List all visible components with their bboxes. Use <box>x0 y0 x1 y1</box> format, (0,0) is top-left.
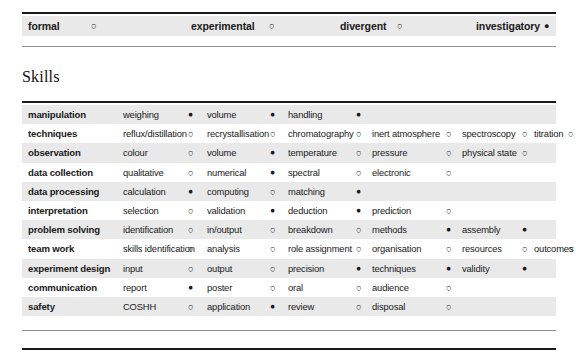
skill-category-label: communication <box>28 278 97 297</box>
skill-item-label: volume <box>207 143 236 162</box>
skill-item-label: volume <box>207 105 236 124</box>
open-circle-icon[interactable] <box>270 259 276 278</box>
filled-circle-icon[interactable] <box>270 163 275 182</box>
skill-item-label: analysis <box>207 239 240 258</box>
skill-item-label: reflux/distillation <box>123 124 187 143</box>
open-circle-icon[interactable] <box>568 239 574 258</box>
skill-item-label: poster <box>207 278 232 297</box>
filled-circle-icon[interactable] <box>522 220 527 239</box>
filled-circle-icon[interactable] <box>446 259 451 278</box>
skill-item-label: breakdown <box>288 220 333 239</box>
skill-item-label: review <box>288 297 314 316</box>
filled-circle-icon[interactable] <box>270 201 275 220</box>
open-circle-icon[interactable] <box>269 16 275 36</box>
open-circle-icon[interactable] <box>446 124 452 143</box>
skill-item-label: handling <box>288 105 322 124</box>
style-descriptor-label: divergent <box>340 16 386 36</box>
open-circle-icon[interactable] <box>270 182 276 201</box>
filled-circle-icon[interactable] <box>446 220 451 239</box>
table-row: communicationreportposteroralaudience <box>22 278 556 297</box>
style-descriptor-label: investigatory <box>476 16 540 36</box>
open-circle-icon[interactable] <box>356 220 362 239</box>
table-row: observationcolourvolumetemperaturepressu… <box>22 143 556 162</box>
skill-item-label: precision <box>288 259 324 278</box>
filled-circle-icon[interactable] <box>188 105 193 124</box>
skill-item-label: prediction <box>372 201 411 220</box>
filled-circle-icon[interactable] <box>356 201 361 220</box>
open-circle-icon[interactable] <box>446 163 452 182</box>
skill-category-label: manipulation <box>28 105 86 124</box>
skill-item-label: numerical <box>207 163 246 182</box>
skill-item-label: methods <box>372 220 407 239</box>
open-circle-icon[interactable] <box>446 143 452 162</box>
skill-item-label: temperature <box>288 143 337 162</box>
skill-item-label: role assignment <box>288 239 352 258</box>
skills-table-top-rule <box>22 101 556 103</box>
open-circle-icon[interactable] <box>568 124 574 143</box>
open-circle-icon[interactable] <box>356 124 362 143</box>
skill-category-label: experiment design <box>28 259 110 278</box>
skill-item-label: titration <box>534 124 563 143</box>
open-circle-icon[interactable] <box>356 143 362 162</box>
open-circle-icon[interactable] <box>91 16 97 36</box>
open-circle-icon[interactable] <box>188 163 194 182</box>
filled-circle-icon[interactable] <box>356 182 361 201</box>
skill-category-label: observation <box>28 143 81 162</box>
skill-item-label: inert atmosphere <box>372 124 440 143</box>
open-circle-icon[interactable] <box>188 220 194 239</box>
open-circle-icon[interactable] <box>522 124 528 143</box>
skill-item-label: report <box>123 278 147 297</box>
skill-item-label: oral <box>288 278 303 297</box>
open-circle-icon[interactable] <box>446 278 452 297</box>
table-row: data collectionqualitativenumericalspect… <box>22 163 556 182</box>
open-circle-icon[interactable] <box>188 143 194 162</box>
skill-item-label: calculation <box>123 182 166 201</box>
table-row: team workskills identificationanalysisro… <box>22 239 556 258</box>
filled-circle-icon[interactable] <box>270 143 275 162</box>
open-circle-icon[interactable] <box>188 124 194 143</box>
skills-table: manipulationweighingvolumehandlingtechni… <box>22 105 556 316</box>
open-circle-icon[interactable] <box>270 220 276 239</box>
open-circle-icon[interactable] <box>522 143 528 162</box>
skills-table-bottom-rule <box>22 348 556 350</box>
open-circle-icon[interactable] <box>356 278 362 297</box>
open-circle-icon[interactable] <box>356 297 362 316</box>
open-circle-icon[interactable] <box>446 297 452 316</box>
skill-category-label: team work <box>28 239 74 258</box>
skill-item-label: chromatography <box>288 124 354 143</box>
open-circle-icon[interactable] <box>270 239 276 258</box>
table-row: problem solvingidentificationin/outputbr… <box>22 220 556 239</box>
open-circle-icon[interactable] <box>356 239 362 258</box>
filled-circle-icon[interactable] <box>356 259 361 278</box>
filled-circle-icon[interactable] <box>188 182 193 201</box>
filled-circle-icon[interactable] <box>270 105 275 124</box>
skill-item-label: pressure <box>372 143 407 162</box>
open-circle-icon[interactable] <box>397 16 403 36</box>
filled-circle-icon[interactable] <box>270 297 275 316</box>
filled-circle-icon[interactable] <box>188 278 193 297</box>
filled-circle-icon[interactable] <box>522 259 527 278</box>
open-circle-icon[interactable] <box>188 239 194 258</box>
skill-item-label: resources <box>462 239 502 258</box>
skill-item-label: electronic <box>372 163 411 182</box>
skill-category-label: data collection <box>28 163 93 182</box>
skill-item-label: COSHH <box>123 297 156 316</box>
open-circle-icon[interactable] <box>356 163 362 182</box>
style-descriptor-label: formal <box>28 16 60 36</box>
skill-item-label: qualitative <box>123 163 164 182</box>
open-circle-icon[interactable] <box>270 124 276 143</box>
open-circle-icon[interactable] <box>446 201 452 220</box>
open-circle-icon[interactable] <box>522 239 528 258</box>
skill-item-label: deduction <box>288 201 327 220</box>
open-circle-icon[interactable] <box>188 259 194 278</box>
table-row: data processingcalculationcomputingmatch… <box>22 182 556 201</box>
open-circle-icon[interactable] <box>270 278 276 297</box>
open-circle-icon[interactable] <box>446 239 452 258</box>
open-circle-icon[interactable] <box>188 297 194 316</box>
open-circle-icon[interactable] <box>188 201 194 220</box>
skill-item-label: recrystallisation <box>207 124 269 143</box>
table-row: manipulationweighingvolumehandling <box>22 105 556 124</box>
filled-circle-icon[interactable] <box>356 105 361 124</box>
filled-circle-icon[interactable] <box>544 16 549 36</box>
skill-item-label: selection <box>123 201 159 220</box>
